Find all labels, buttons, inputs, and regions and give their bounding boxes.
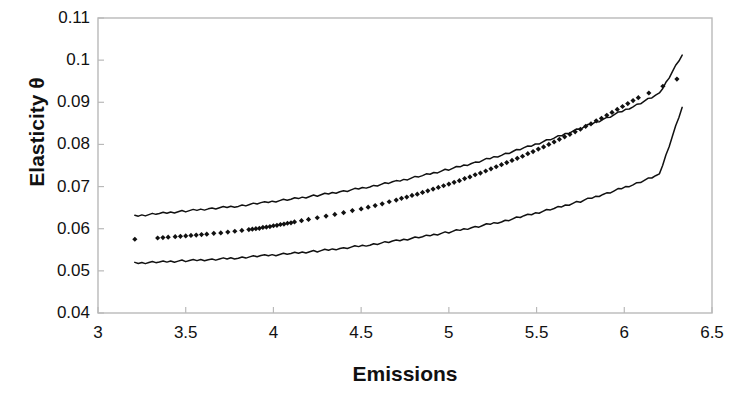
x-tick-label: 4 — [243, 323, 303, 343]
elasticity-emissions-chart: 0.040.050.060.070.080.090.10.11 33.544.5… — [0, 0, 730, 398]
x-tick-label: 4.5 — [331, 323, 391, 343]
x-tick-label: 5.5 — [507, 323, 567, 343]
x-tick-label: 3 — [68, 323, 128, 343]
x-axis-tick-labels: 33.544.555.566.5 — [0, 0, 730, 398]
x-tick-label: 6 — [594, 323, 654, 343]
y-axis-title: Elasticity θ — [25, 52, 49, 212]
x-tick-label: 3.5 — [156, 323, 216, 343]
x-tick-label: 6.5 — [682, 323, 730, 343]
x-tick-label: 5 — [419, 323, 479, 343]
x-axis-title: Emissions — [98, 362, 712, 386]
